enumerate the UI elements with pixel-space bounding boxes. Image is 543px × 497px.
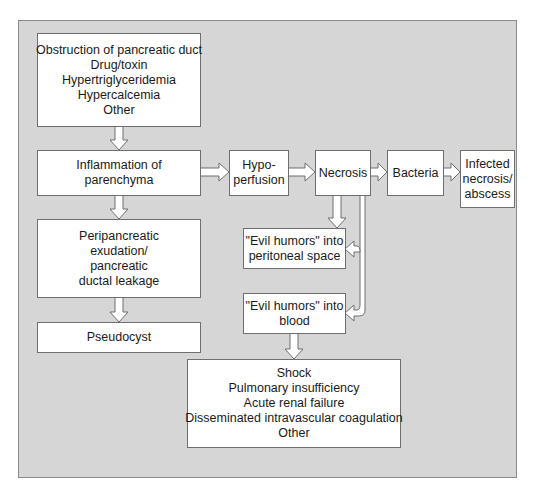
node-evil-blood: "Evil humors" into blood — [243, 293, 346, 334]
node-bacteria: Bacteria — [387, 150, 444, 196]
node-evil-peritoneal: "Evil humors" into peritoneal space — [243, 228, 346, 269]
node-outcomes: Shock Pulmonary insufficiency Acute rena… — [187, 359, 401, 448]
node-exudation: Peripancreatic exudation/ pancreatic duc… — [37, 219, 201, 298]
node-infected: Infected necrosis/ abscess — [460, 150, 515, 208]
node-causes: Obstruction of pancreatic duct Drug/toxi… — [37, 33, 201, 127]
node-necrosis: Necrosis — [315, 150, 371, 196]
node-pseudocyst: Pseudocyst — [37, 322, 201, 353]
node-inflammation: Inflammation of parenchyma — [37, 150, 201, 196]
node-hypoperfusion: Hypo- perfusion — [229, 150, 289, 196]
